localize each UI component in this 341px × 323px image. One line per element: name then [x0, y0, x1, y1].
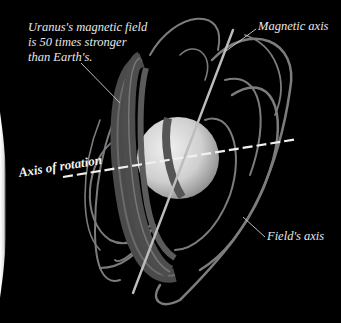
fields-axis-label: Field's axis	[267, 229, 324, 244]
field-strength-label: Uranus's magnetic field is 50 times stro…	[28, 20, 168, 65]
field-strength-line-1: Uranus's magnetic field	[28, 20, 168, 35]
field-strength-line-3: than Earth's.	[28, 50, 168, 65]
magnetic-axis-label: Magnetic axis	[258, 19, 328, 34]
field-strength-line-2: is 50 times stronger	[28, 35, 168, 50]
